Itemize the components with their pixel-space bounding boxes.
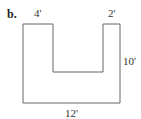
part-label: b. xyxy=(7,8,17,20)
u-shape-outline xyxy=(23,24,120,103)
u-shape-diagram xyxy=(0,0,141,119)
u-shape-figure: b. 4' 2' 10' 12' xyxy=(0,0,141,119)
dimension-top-left-width: 4' xyxy=(34,8,41,19)
dimension-top-right-width: 2' xyxy=(108,8,115,19)
dimension-right-height: 10' xyxy=(123,56,136,67)
dimension-bottom-width: 12' xyxy=(65,108,78,119)
